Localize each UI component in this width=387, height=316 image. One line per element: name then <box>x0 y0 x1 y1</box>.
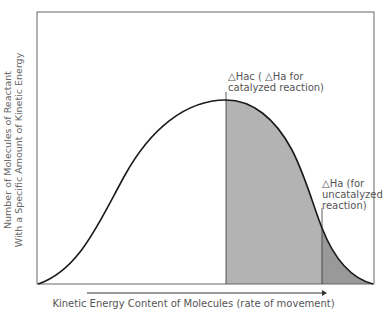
arrow-head-icon <box>322 290 327 296</box>
catalyzed-label-line1: △Hac ( △Ha for <box>228 71 303 82</box>
uncatalyzed-label-line2: uncatalyzed <box>322 189 383 200</box>
energy-distribution-plot <box>0 0 387 316</box>
x-axis-label: Kinetic Energy Content of Molecules (rat… <box>0 298 387 309</box>
uncatalyzed-shaded-area <box>322 228 373 284</box>
y-axis-label-line1: Number of Molecules of Reactant <box>2 40 13 260</box>
catalyzed-shaded-area <box>226 100 322 284</box>
y-axis-label-line2: With a Specific Amount of Kinetic Energy <box>13 40 24 260</box>
uncatalyzed-label-line1: △Ha (for <box>322 178 364 189</box>
uncatalyzed-label-line3: reaction) <box>322 200 367 211</box>
catalyzed-label-line2: catalyzed reaction) <box>228 82 324 93</box>
y-axis-label: Number of Molecules of Reactant With a S… <box>2 40 24 260</box>
